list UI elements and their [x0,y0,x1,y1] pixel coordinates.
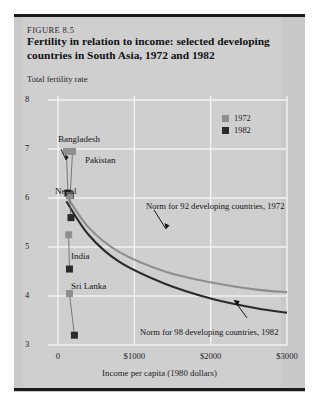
x-tick-2000: $2000 [195,351,227,361]
x-tick-3000: $3000 [271,351,303,361]
country-label-sri-lanka: Sri Lanka [71,281,106,291]
figure-number: FIGURE 8.5 [27,25,74,35]
y-axis-title: Total fertility rate [27,74,87,84]
y-tick-6: 6 [25,192,29,202]
y-tick-7: 7 [25,143,29,153]
country-label-pakistan: Pakistan [85,155,116,165]
legend-label-1972: 1972 [234,114,251,123]
legend-item-1972: 1972 [222,114,251,123]
bottom-rule [14,388,305,391]
y-tick-8: 8 [25,94,29,104]
figure-title: Fertility in relation to income: selecte… [27,35,279,62]
x-tick-1000: $1000 [118,351,150,361]
legend-label-1982: 1982 [234,126,251,135]
x-axis-title: Income per capita (1980 dollars) [0,368,319,378]
y-tick-3: 3 [25,339,29,349]
country-label-india: India [71,251,90,261]
legend-swatch-1972 [222,115,229,122]
norm-annotation-1982: Norm for 98 developing countries, 1982 [140,327,278,337]
country-label-nepal: Nepal [55,186,77,196]
legend-item-1982: 1982 [222,126,251,135]
legend-swatch-1982 [222,127,229,134]
chart-legend: 1972 1982 [222,114,251,138]
figure-page: FIGURE 8.5 Fertility in relation to inco… [0,0,319,408]
y-tick-4: 4 [25,290,29,300]
country-label-bangladesh: Bangladesh [58,134,100,144]
y-tick-5: 5 [25,241,29,251]
norm-annotation-1972: Norm for 92 developing countries, 1972 [146,201,284,211]
x-tick-0: 0 [42,351,74,361]
